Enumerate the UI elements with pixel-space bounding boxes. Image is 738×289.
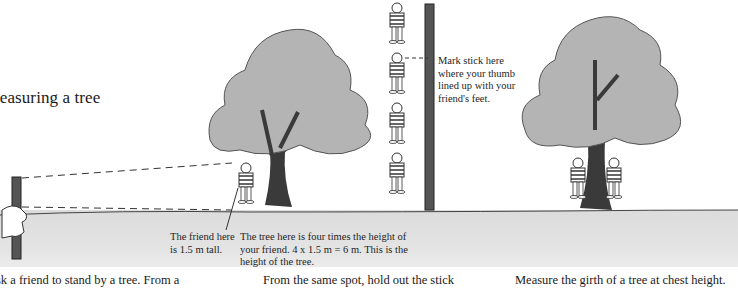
child-hugging-right-figure: [606, 158, 622, 199]
marked-stick-icon: [425, 4, 434, 210]
friend-figure: [238, 163, 254, 204]
body-text-col1: sk a friend to stand by a tree. From a: [0, 273, 179, 288]
hand-icon: [2, 206, 27, 238]
pointer-line: [226, 188, 238, 230]
caption-mark-stick: Mark stick here where your thumb lined u…: [438, 55, 528, 105]
ground-line: [0, 210, 738, 215]
tree-2-icon: [522, 17, 680, 210]
child-hugging-left-figure: [570, 158, 586, 199]
stacked-friends-illustration: [389, 3, 405, 194]
body-text-col3: Measure the girth of a tree at chest hei…: [515, 273, 726, 288]
page-title: Ieasuring a tree: [0, 88, 100, 108]
caption-tree-height: The tree here is four times the height o…: [240, 231, 420, 269]
caption-friend-height: The friend here is 1.5 m tall.: [170, 231, 236, 256]
sight-line-top: [22, 163, 232, 178]
body-text-col2: From the same spot, hold out the stick: [263, 273, 454, 288]
sight-line-bottom: [22, 207, 232, 210]
tree-1-icon: [209, 29, 371, 207]
